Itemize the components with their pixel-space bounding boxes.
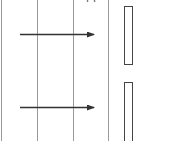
activation-box: [125, 83, 133, 142]
lifelines: [2, 0, 109, 141]
sequence-diagram: [0, 0, 180, 141]
messages: [20, 35, 94, 108]
activation-box: [125, 7, 133, 65]
activation-boxes: [125, 7, 133, 142]
